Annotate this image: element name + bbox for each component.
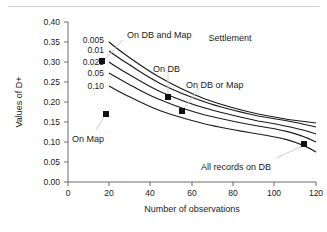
annotation-settlement: Settlement [208,33,252,43]
leader-all-records-on-db [276,146,303,158]
marker-on-db-or-map[interactable] [179,108,185,114]
y-tick-label: 0.30 [43,57,60,67]
y-tick-label: 0.00 [43,177,60,187]
x-tick-label: 120 [309,188,323,198]
marker-on-map[interactable] [103,111,109,117]
axis-group [68,22,316,182]
x-tickmarks [68,182,316,186]
x-tick-labels: 0 20 40 60 80 100 120 [66,188,324,198]
x-tick-label: 40 [145,188,155,198]
curve-label-010: 0.10 [87,81,104,91]
y-tickmarks [64,22,68,182]
y-tick-label: 0.05 [43,157,60,167]
y-tick-label: 0.10 [43,137,60,147]
x-tick-label: 0 [66,188,71,198]
curve-label-001: 0.01 [87,45,104,55]
marker-all-records-on-db[interactable] [301,141,307,147]
annotation-on-db-and-map: On DB and Map [127,30,192,40]
y-tick-label: 0.20 [43,97,60,107]
annotation-on-map: On Map [72,134,104,144]
data-point-markers [99,58,307,147]
curve-label-0005: 0.005 [83,35,105,45]
y-tick-label: 0.40 [43,17,60,27]
x-tick-label: 80 [228,188,238,198]
annotation-on-db: On DB [153,64,180,74]
x-tick-label: 60 [187,188,197,198]
leader-lines [96,40,303,158]
chart-figure: 0.40 0.35 0.30 0.25 0.20 0.15 0.10 0.05 … [0,0,327,232]
annotation-all-records-on-db: All records on DB [201,162,271,172]
curve-group [109,42,316,152]
curve-0025 [109,62,316,134]
y-tick-labels: 0.40 0.35 0.30 0.25 0.20 0.15 0.10 0.05 … [43,17,60,187]
x-tick-label: 100 [267,188,281,198]
marker-on-db-and-map[interactable] [99,58,105,64]
settlement-dplus-chart: 0.40 0.35 0.30 0.25 0.20 0.15 0.10 0.05 … [0,0,327,232]
y-tick-label: 0.15 [43,117,60,127]
x-axis-title: Number of observations [144,204,240,214]
y-tick-label: 0.35 [43,37,60,47]
marker-on-db[interactable] [165,94,171,100]
y-tick-label: 0.25 [43,77,60,87]
annotation-on-db-or-map: On DB or Map [186,80,244,90]
y-axis-title: Values of D+ [14,76,24,127]
x-tick-label: 20 [104,188,114,198]
curve-label-005: 0.05 [87,68,104,78]
